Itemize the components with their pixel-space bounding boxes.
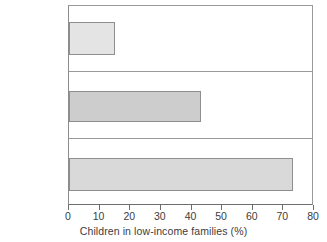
band-divider-2 xyxy=(69,138,312,139)
plot-area xyxy=(68,5,313,205)
x-tick-label: 60 xyxy=(237,210,267,223)
x-tick-label: 40 xyxy=(176,210,206,223)
band-divider-1 xyxy=(69,71,312,72)
bar-more-than-high-school xyxy=(69,22,115,55)
x-tick-label: 50 xyxy=(206,210,236,223)
bar-less-than-high-school xyxy=(69,158,293,191)
x-tick-label: 20 xyxy=(114,210,144,223)
x-tick-label: 30 xyxy=(145,210,175,223)
x-tick-label: 80 xyxy=(298,210,327,223)
bar-high-school xyxy=(69,91,201,122)
bar-chart: More than High School High School Less t… xyxy=(0,0,327,242)
x-axis-title: Children in low-income families (%) xyxy=(0,225,327,238)
x-tick-label: 0 xyxy=(53,210,83,223)
x-tick-label: 70 xyxy=(267,210,297,223)
x-tick-label: 10 xyxy=(84,210,114,223)
